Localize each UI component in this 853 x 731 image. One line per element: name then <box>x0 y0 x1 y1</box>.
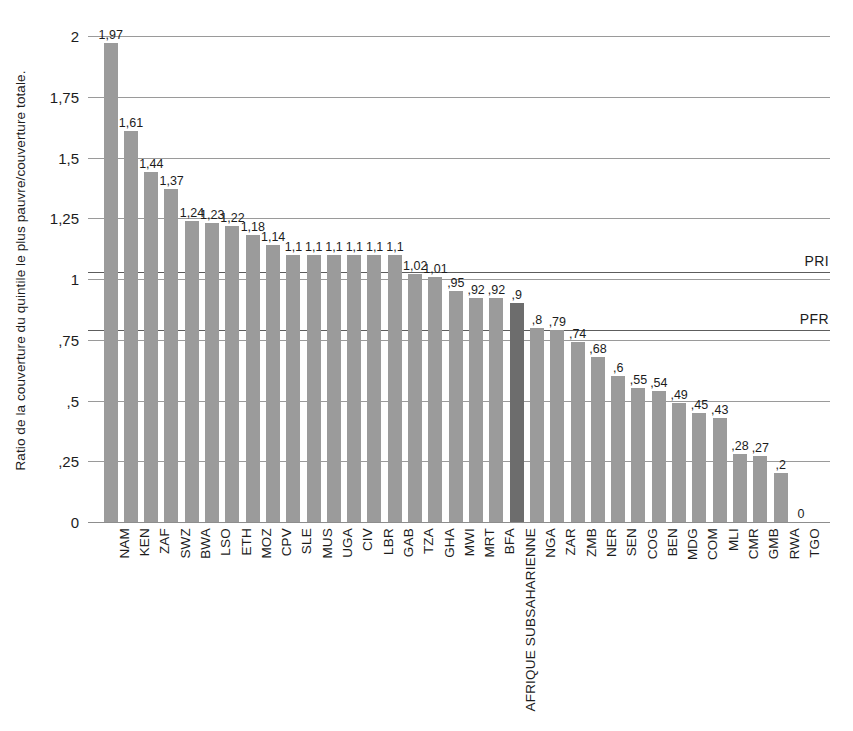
bar-value-label: 1,44 <box>139 157 163 171</box>
x-axis-label-sle: SLE <box>283 528 303 728</box>
x-axis-label-cog: COG <box>628 528 648 728</box>
bar <box>489 298 503 522</box>
bar <box>286 255 300 522</box>
bar <box>733 454 747 522</box>
bar-value-label: ,68 <box>589 342 606 356</box>
y-axis-tick-label: ,5 <box>66 392 79 409</box>
bar-value-label: 1,1 <box>305 240 322 254</box>
bar-value-label: 1,1 <box>366 240 383 254</box>
bar-value-label: 1,97 <box>99 28 123 42</box>
y-axis-tick-label: 1 <box>71 271 79 288</box>
bar <box>388 255 402 522</box>
x-axis-label-com: COM <box>689 528 709 728</box>
bar <box>124 131 138 522</box>
x-axis-label-mus: MUS <box>304 528 324 728</box>
x-axis-label-zaf: ZAF <box>141 528 161 728</box>
bar <box>246 235 260 522</box>
bar-value-label: ,95 <box>447 276 464 290</box>
y-axis-tick-label: 2 <box>71 28 79 45</box>
x-axis-label-tgo: TGO <box>791 528 811 728</box>
gridline: 0 <box>88 522 830 523</box>
x-axis-label-civ: CIV <box>344 528 364 728</box>
x-axis-label-moz: MOZ <box>243 528 263 728</box>
x-axis-label-tza: TZA <box>405 528 425 728</box>
bar <box>692 413 706 522</box>
bar-value-label: ,27 <box>752 441 769 455</box>
bar <box>530 328 544 522</box>
bar <box>185 221 199 522</box>
bar <box>611 376 625 522</box>
x-axis-label-cpv: CPV <box>263 528 283 728</box>
x-axis-label-nga: NGA <box>527 528 547 728</box>
bar-value-label: 1,1 <box>346 240 363 254</box>
x-axis-label-ken: KEN <box>121 528 141 728</box>
x-axis-label-mwi: MWI <box>446 528 466 728</box>
bar-value-label: 1,61 <box>119 116 143 130</box>
bar-value-label: ,49 <box>670 388 687 402</box>
bar <box>672 403 686 522</box>
bar-value-label: ,6 <box>613 361 623 375</box>
y-axis-title: Ratio de la couverture du quintile le pl… <box>0 0 40 540</box>
bar-value-label: ,9 <box>512 288 522 302</box>
bar-value-label: 1,1 <box>325 240 342 254</box>
x-axis-label-eth: ETH <box>222 528 242 728</box>
bar-value-label: 1,01 <box>423 262 447 276</box>
bar <box>652 391 666 522</box>
x-axis-label-cmr: CMR <box>730 528 750 728</box>
x-axis-label-gha: GHA <box>425 528 445 728</box>
bar-value-label: 1,14 <box>261 230 285 244</box>
x-axis-label-ner: NER <box>588 528 608 728</box>
y-axis-tick-label: 0 <box>71 514 79 531</box>
x-axis-label-mrt: MRT <box>466 528 486 728</box>
bar <box>408 274 422 522</box>
bar <box>510 303 524 522</box>
bar-value-label: ,79 <box>549 315 566 329</box>
bar <box>449 291 463 522</box>
bar <box>631 388 645 522</box>
x-axis-label-bfa: BFA <box>486 528 506 728</box>
bar <box>347 255 361 522</box>
bar-value-label: ,28 <box>731 439 748 453</box>
x-axis-label-rwa: RWA <box>771 528 791 728</box>
x-axis-label-mli: MLI <box>710 528 730 728</box>
y-axis-tick-label: ,25 <box>58 453 79 470</box>
y-axis-title-text: Ratio de la couverture du quintile le pl… <box>13 70 28 470</box>
bar-value-label: 1,1 <box>386 240 403 254</box>
bar <box>266 245 280 522</box>
bar <box>713 418 727 522</box>
bar <box>164 189 178 522</box>
bar <box>104 43 118 522</box>
bar <box>469 298 483 522</box>
bar-value-label: 1,1 <box>285 240 302 254</box>
x-axis-label-ben: BEN <box>649 528 669 728</box>
bar-series: 1,971,611,441,371,241,231,221,181,141,11… <box>88 36 830 522</box>
x-axis-label-gmb: GMB <box>750 528 770 728</box>
y-axis-tick-label: 1,25 <box>50 210 79 227</box>
bar-value-label: 1,37 <box>159 174 183 188</box>
x-axis-label-lso: LSO <box>202 528 222 728</box>
y-axis-tick-label: 1,75 <box>50 88 79 105</box>
x-axis-label-gab: GAB <box>385 528 405 728</box>
plot-area: 21,751,51,251,75,5,250 PRIPFR 1,971,611,… <box>88 36 830 522</box>
bar <box>144 172 158 522</box>
bar-value-label: ,54 <box>650 376 667 390</box>
bar <box>571 342 585 522</box>
bar <box>550 330 564 522</box>
bar-value-label: ,45 <box>691 398 708 412</box>
bar <box>367 255 381 522</box>
bar <box>428 277 442 522</box>
bar-value-label: ,92 <box>488 283 505 297</box>
bar-value-label: 0 <box>797 507 804 521</box>
x-axis-label-bwa: BWA <box>182 528 202 728</box>
bar-value-label: ,43 <box>711 403 728 417</box>
bar-value-label: ,2 <box>775 458 785 472</box>
bar-value-label: ,8 <box>532 313 542 327</box>
bar <box>327 255 341 522</box>
bar <box>225 226 239 522</box>
bar <box>205 223 219 522</box>
bar <box>591 357 605 522</box>
x-axis-label-lbr: LBR <box>364 528 384 728</box>
x-axis-label-text: TGO <box>807 528 822 558</box>
x-axis-label-zmb: ZMB <box>568 528 588 728</box>
chart-figure: Ratio de la couverture du quintile le pl… <box>0 0 853 731</box>
